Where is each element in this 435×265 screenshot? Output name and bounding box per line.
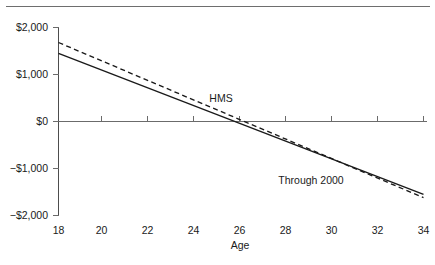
x-tick-label-20: 20 [96,224,108,236]
x-axis-title: Age [231,239,250,251]
series-line-through-2000 [59,43,424,198]
series-annotation-through-2000: Through 2000 [278,174,344,186]
x-tick-label-30: 30 [326,224,338,236]
series-line-hms [59,53,424,194]
y-tick-label-2000: $2,000 [16,21,48,33]
x-tick-label-18: 18 [53,224,65,236]
y-tick-label-neg2000: −$2,000 [10,209,48,221]
line-chart-canvas: $2,000 $1,000 $0 −$1,000 −$2,000 18 20 2… [0,0,435,265]
x-tick-label-28: 28 [280,224,292,236]
chart-figure: $2,000 $1,000 $0 −$1,000 −$2,000 18 20 2… [0,0,435,265]
x-tick-label-24: 24 [188,224,200,236]
series-annotation-hms: HMS [209,92,232,104]
x-tick-label-32: 32 [372,224,384,236]
x-tick-label-34: 34 [418,224,430,236]
x-tick-label-22: 22 [142,224,154,236]
y-tick-label-1000: $1,000 [16,68,48,80]
x-tick-label-26: 26 [234,224,246,236]
y-tick-label-neg1000: −$1,000 [10,162,48,174]
y-tick-label-0: $0 [36,115,48,127]
